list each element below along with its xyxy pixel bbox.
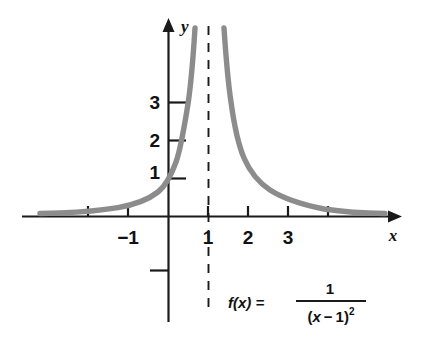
formula-numerator: 1 bbox=[326, 280, 334, 297]
y-tick-labels: 1 2 3 bbox=[149, 92, 160, 183]
formula-denominator-minus: − bbox=[324, 308, 333, 325]
y-axis-label: y bbox=[179, 17, 189, 36]
x-tick-label--1: −1 bbox=[117, 227, 139, 248]
figure-background bbox=[0, 0, 424, 339]
function-graph-figure: x −1 1 2 3 y bbox=[0, 0, 424, 339]
formula-denominator-exponent: 2 bbox=[349, 306, 355, 317]
y-tick-label-2: 2 bbox=[149, 130, 160, 151]
x-tick-label-3: 3 bbox=[283, 227, 294, 248]
formula-denominator: (x−1)2 bbox=[307, 306, 354, 325]
graph-canvas: x −1 1 2 3 y bbox=[0, 0, 424, 339]
y-tick-label-3: 3 bbox=[149, 92, 160, 113]
formula-denominator-close: 1) bbox=[336, 308, 349, 325]
formula-lhs: f(x) = bbox=[228, 294, 264, 311]
y-tick-label-1: 1 bbox=[149, 162, 160, 183]
formula-denominator-var: x bbox=[311, 308, 321, 325]
x-tick-label-2: 2 bbox=[243, 227, 254, 248]
formula-fx: f(x) = bbox=[228, 294, 264, 311]
x-axis-label: x bbox=[388, 226, 398, 245]
